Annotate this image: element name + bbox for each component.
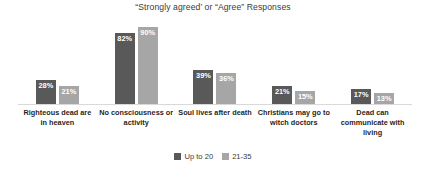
legend-label-series2: 21-35 xyxy=(232,152,251,161)
bar-series1-cat0[interactable]: 28% xyxy=(36,80,56,104)
bar-value-label: 39% xyxy=(196,71,211,80)
category-label-0: Righteous dead are in heaven xyxy=(18,108,97,138)
bar-value-label: 90% xyxy=(140,28,155,37)
x-axis-line xyxy=(18,104,412,105)
bar-value-label: 13% xyxy=(377,94,392,103)
chart-legend: Up to 20 21-35 xyxy=(0,152,426,161)
bar-series2-cat4[interactable]: 13% xyxy=(374,93,394,104)
bar-value-label: 17% xyxy=(354,90,369,99)
legend-swatch-icon xyxy=(222,153,229,160)
bar-series1-cat3[interactable]: 21% xyxy=(272,86,292,104)
bar-series2-cat1[interactable]: 90% xyxy=(138,27,158,104)
bar-value-label: 36% xyxy=(219,74,234,83)
legend-item-series1[interactable]: Up to 20 xyxy=(174,152,213,161)
category-label-4: Dead can communicate with living xyxy=(333,108,412,138)
bar-value-label: 28% xyxy=(38,81,53,90)
category-label-2: Soul lives after death xyxy=(176,108,255,138)
bar-series2-cat0[interactable]: 21% xyxy=(59,86,79,104)
bar-value-label: 82% xyxy=(117,34,132,43)
bar-value-label: 21% xyxy=(275,87,290,96)
legend-item-series2[interactable]: 21-35 xyxy=(222,152,251,161)
chart-title: “Strongly agreed’ or “Agree” Responses xyxy=(0,2,426,12)
category-label-1: No consciousness or activity xyxy=(97,108,176,138)
legend-label-series1: Up to 20 xyxy=(184,152,213,161)
bar-group-0: 28% 21% xyxy=(18,18,97,104)
bar-value-label: 15% xyxy=(298,92,313,101)
bar-series1-cat4[interactable]: 17% xyxy=(351,89,371,104)
bar-group-4: 17% 13% xyxy=(333,18,412,104)
bar-group-3: 21% 15% xyxy=(254,18,333,104)
bar-series2-cat3[interactable]: 15% xyxy=(295,91,315,104)
bar-group-1: 82% 90% xyxy=(97,18,176,104)
bar-series1-cat1[interactable]: 82% xyxy=(115,33,135,104)
legend-swatch-icon xyxy=(174,153,181,160)
bar-groups: 28% 21% 82% 90% 39% 36% 21% xyxy=(18,18,412,104)
category-labels: Righteous dead are in heaven No consciou… xyxy=(18,108,412,138)
category-label-3: Christians may go to witch doctors xyxy=(254,108,333,138)
bar-series1-cat2[interactable]: 39% xyxy=(193,70,213,104)
bar-group-2: 39% 36% xyxy=(176,18,255,104)
bar-chart: “Strongly agreed’ or “Agree” Responses 2… xyxy=(0,0,426,174)
bar-value-label: 21% xyxy=(61,87,76,96)
bar-series2-cat2[interactable]: 36% xyxy=(216,73,236,104)
